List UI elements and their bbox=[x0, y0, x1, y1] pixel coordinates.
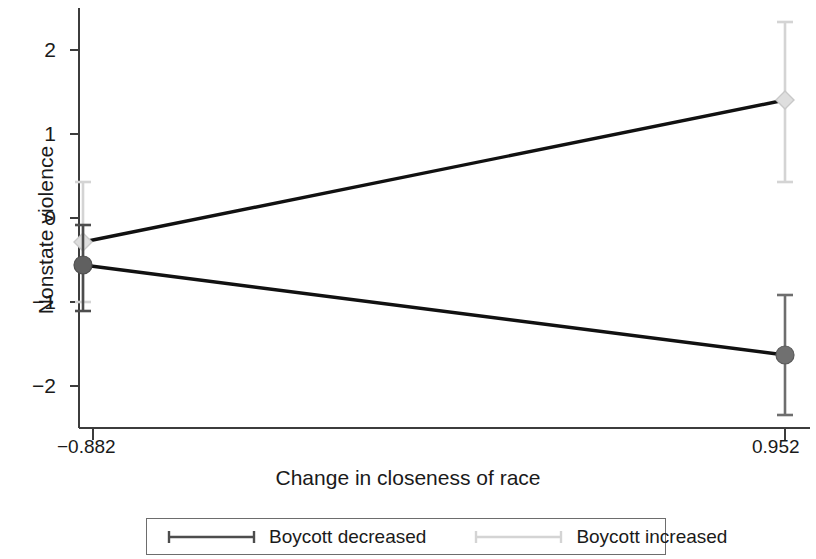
legend-item-boycott-decreased: Boycott decreased bbox=[165, 526, 426, 548]
trend-line-boycott-increased bbox=[83, 100, 785, 242]
y-tick-label-2: 2 bbox=[10, 38, 56, 62]
legend-label-boycott-decreased: Boycott decreased bbox=[269, 526, 426, 548]
trend-line-boycott-decreased bbox=[83, 265, 785, 355]
y-tick-label-1: 1 bbox=[10, 122, 56, 146]
x-tick-label-left: −0.882 bbox=[57, 436, 116, 458]
error-bar-light-icon bbox=[472, 530, 565, 544]
series-boycott-decreased bbox=[74, 225, 794, 415]
error-bar-dark-icon bbox=[165, 530, 258, 544]
legend-label-boycott-increased: Boycott increased bbox=[576, 526, 727, 548]
y-tick-label-0: 0 bbox=[10, 206, 56, 230]
chart-legend: Boycott decreased Boycott increased bbox=[146, 518, 666, 555]
legend-item-boycott-increased: Boycott increased bbox=[472, 526, 727, 548]
x-axis-ticks bbox=[93, 428, 785, 440]
chart-figure: Nonstate violence 2 1 0 −1 −2 −0.882 0.9… bbox=[0, 0, 816, 559]
x-tick-label-right: 0.952 bbox=[752, 436, 800, 458]
series-boycott-increased bbox=[74, 22, 794, 302]
y-axis-ticks bbox=[70, 50, 79, 386]
y-tick-label-neg2: −2 bbox=[10, 374, 56, 398]
x-axis-title: Change in closeness of race bbox=[0, 466, 816, 490]
y-tick-label-neg1: −1 bbox=[10, 290, 56, 314]
marker-dark-right bbox=[776, 346, 794, 364]
marker-dark-left bbox=[74, 256, 92, 274]
marker-light-right bbox=[776, 91, 794, 109]
